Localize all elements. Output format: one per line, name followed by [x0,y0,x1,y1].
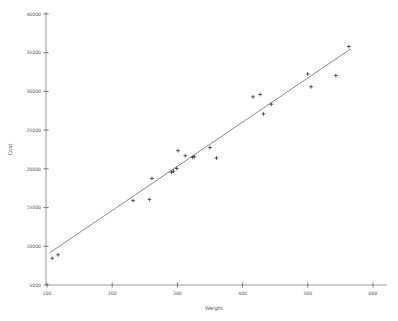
data-point [309,85,313,89]
data-point [262,112,266,116]
data-point [175,167,179,171]
y-tick-label: 30000 [26,89,41,94]
data-point [56,253,60,257]
y-tick-label: 20000 [26,167,41,172]
data-point [251,95,255,99]
y-tick-label: 25000 [26,128,41,133]
data-point [190,155,194,159]
x-tick-label: 500 [303,291,312,296]
data-point [306,72,310,76]
data-point [269,102,273,106]
x-tick-label: 400 [238,291,247,296]
x-tick-label: 300 [173,291,182,296]
data-point [347,45,351,49]
x-axis-title: Weight [205,305,223,312]
data-point [334,74,338,78]
y-tick-label: 15000 [26,205,41,210]
x-tick-label: 200 [108,291,117,296]
x-tick-label: 100 [43,291,52,296]
x-tick-label: 600 [369,291,378,296]
data-point [208,146,212,150]
scatter-plot-svg: 5000100001500020000250003000035000400001… [0,0,398,321]
y-axis-title: Cost [7,144,13,156]
regression-line [50,49,351,253]
data-point [176,149,180,153]
data-point [50,256,54,260]
y-tick-label: 10000 [26,244,41,249]
data-point [183,154,187,158]
data-point [131,199,135,203]
data-point [215,156,219,160]
data-point [150,177,154,181]
data-point [258,93,262,97]
data-point [147,198,151,202]
scatter-points [50,45,350,261]
y-tick-label: 40000 [26,12,41,17]
chart-figure: 5000100001500020000250003000035000400001… [0,0,398,321]
y-tick-label: 35000 [26,50,41,55]
y-tick-label: 5000 [29,283,41,288]
